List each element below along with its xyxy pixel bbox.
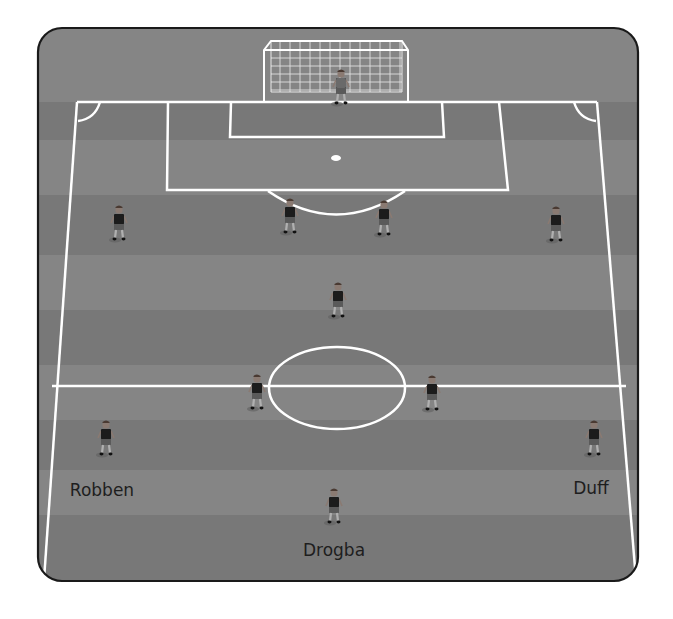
pitch-stripe — [38, 195, 638, 255]
pitch-stripe — [38, 140, 638, 195]
player-shirt — [589, 429, 599, 439]
player-shirt — [333, 291, 343, 301]
player-shirt — [101, 429, 111, 439]
pitch-stripe — [38, 420, 638, 470]
pitch-stripe — [38, 365, 638, 420]
player-label-robben: Robben — [70, 480, 134, 500]
player-shirt — [114, 214, 124, 224]
player-label-drogba: Drogba — [303, 540, 365, 560]
player-shirt — [427, 384, 437, 394]
player-shirt — [252, 383, 262, 393]
player-shirt — [336, 78, 346, 88]
player-shirt — [329, 497, 339, 507]
pitch-diagram — [0, 0, 673, 619]
player-shirt — [285, 207, 295, 217]
pitch-stripe — [38, 102, 638, 140]
player-shirt — [551, 215, 561, 225]
penalty-spot — [331, 155, 341, 161]
player-shirt — [379, 209, 389, 219]
player-label-duff: Duff — [573, 478, 609, 498]
